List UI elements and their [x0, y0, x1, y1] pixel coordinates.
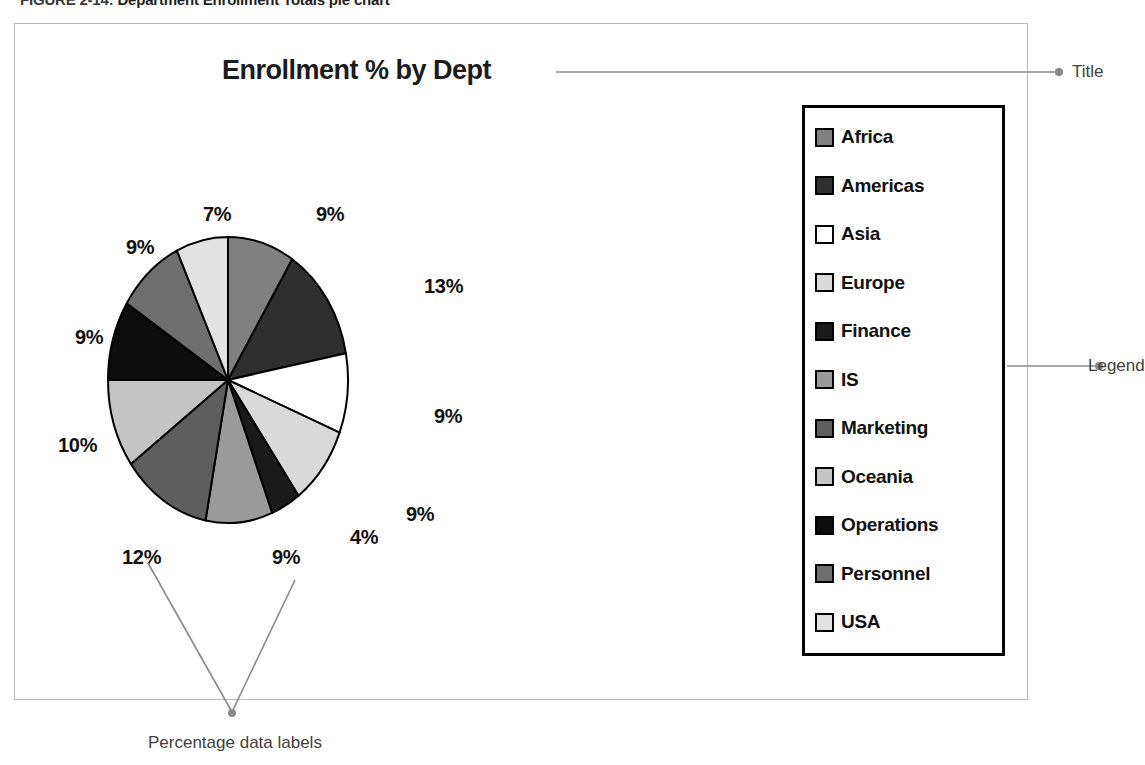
- title-callout-dot: [1055, 68, 1063, 76]
- pie-data-label-oceania: 10%: [58, 434, 97, 457]
- legend-swatch-icon: [815, 516, 834, 535]
- legend-item-usa[interactable]: USA: [815, 611, 880, 633]
- legend-item-finance[interactable]: Finance: [815, 320, 911, 342]
- legend-item-label: Europe: [841, 272, 905, 294]
- pie-data-label-europe: 9%: [406, 503, 434, 526]
- legend-swatch-icon: [815, 128, 834, 147]
- chart-legend[interactable]: AfricaAmericasAsiaEuropeFinanceISMarketi…: [802, 105, 1005, 656]
- legend-item-label: Asia: [841, 223, 880, 245]
- legend-swatch-icon: [815, 467, 834, 486]
- legend-item-label: USA: [841, 611, 880, 633]
- legend-item-operations[interactable]: Operations: [815, 514, 938, 536]
- annotation-data-labels: Percentage data labels: [148, 733, 322, 753]
- legend-item-personnel[interactable]: Personnel: [815, 563, 930, 585]
- legend-swatch-icon: [815, 564, 834, 583]
- legend-swatch-icon: [815, 370, 834, 389]
- pie-data-label-operations: 9%: [75, 326, 103, 349]
- legend-item-asia[interactable]: Asia: [815, 223, 880, 245]
- legend-swatch-icon: [815, 225, 834, 244]
- figure-caption: FIGURE 2-14: Department Enrollment Total…: [20, 0, 390, 8]
- pie-data-label-finance: 4%: [350, 526, 378, 549]
- pie-data-label-personnel: 9%: [126, 236, 154, 259]
- legend-swatch-icon: [815, 613, 834, 632]
- pie-data-label-africa: 9%: [316, 203, 344, 226]
- legend-swatch-icon: [815, 176, 834, 195]
- legend-swatch-icon: [815, 322, 834, 341]
- pie-slices[interactable]: [108, 237, 348, 523]
- legend-item-label: Africa: [841, 126, 893, 148]
- legend-item-label: Operations: [841, 514, 938, 536]
- legend-swatch-icon: [815, 419, 834, 438]
- annotation-legend: Legend: [1088, 356, 1145, 376]
- legend-item-label: Marketing: [841, 417, 928, 439]
- pie-data-label-marketing: 12%: [122, 546, 161, 569]
- legend-item-oceania[interactable]: Oceania: [815, 466, 913, 488]
- pie-data-label-usa: 7%: [203, 203, 231, 226]
- legend-item-africa[interactable]: Africa: [815, 126, 893, 148]
- legend-swatch-icon: [815, 273, 834, 292]
- figure-caption-text: Department Enrollment Totals pie chart: [117, 0, 389, 8]
- pie-data-label-asia: 9%: [434, 405, 462, 428]
- pie-chart: [104, 234, 352, 526]
- pie-chart-svg: [104, 234, 352, 526]
- legend-item-label: IS: [841, 369, 858, 391]
- legend-item-label: Americas: [841, 175, 924, 197]
- legend-item-is[interactable]: IS: [815, 369, 858, 391]
- legend-item-europe[interactable]: Europe: [815, 272, 905, 294]
- legend-item-label: Oceania: [841, 466, 913, 488]
- legend-item-label: Personnel: [841, 563, 930, 585]
- legend-item-label: Finance: [841, 320, 911, 342]
- chart-title: Enrollment % by Dept: [222, 55, 491, 86]
- legend-item-americas[interactable]: Americas: [815, 175, 924, 197]
- annotation-title: Title: [1072, 62, 1104, 82]
- legend-item-marketing[interactable]: Marketing: [815, 417, 928, 439]
- figure-number: FIGURE 2-14:: [20, 0, 113, 8]
- pie-data-label-americas: 13%: [424, 275, 463, 298]
- data-labels-callout-dot: [228, 709, 236, 717]
- pie-data-label-is: 9%: [272, 546, 300, 569]
